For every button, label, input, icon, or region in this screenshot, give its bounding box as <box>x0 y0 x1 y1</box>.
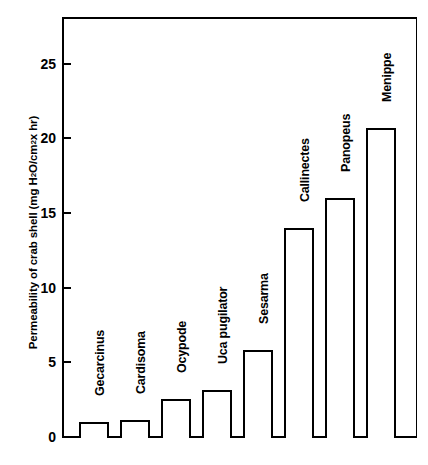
y-axis-tick-label: 0 <box>48 430 56 444</box>
bar-slot: Gecarcinus <box>79 19 109 438</box>
bar-slot: Callinectes <box>284 19 314 438</box>
bar-slot: Cardisoma <box>120 19 150 438</box>
y-axis-title-mid: O/cm <box>27 145 39 173</box>
bar-slot: Uca pugilator <box>202 19 232 438</box>
bar-label: Menippe <box>380 52 394 101</box>
bar-label: Gecarcinus <box>93 330 107 396</box>
bar-slot: Sesarma <box>243 19 273 438</box>
y-axis-title-sub-2: 2 <box>29 173 38 177</box>
bars-group: GecarcinusCardisomaOcypodeUca pugilatorS… <box>64 19 415 438</box>
y-axis-title-post: x hr) <box>27 116 39 140</box>
bar-slot: Panopeus <box>325 19 355 438</box>
bar[interactable] <box>325 198 355 438</box>
y-axis-tick-label: 5 <box>48 355 56 369</box>
y-axis-tick-label: 10 <box>40 281 56 295</box>
bar[interactable] <box>120 420 150 438</box>
bar[interactable] <box>284 228 314 438</box>
bar[interactable] <box>79 422 109 438</box>
y-axis-tick-label: 25 <box>40 57 56 71</box>
bar-label: Uca pugilator <box>216 287 230 364</box>
bar-chart-figure: Permeability of crab shell (mg H2O/cm2 x… <box>0 0 428 465</box>
bar[interactable] <box>161 399 191 438</box>
bar-slot: Ocypode <box>161 19 191 438</box>
bar[interactable] <box>366 128 396 439</box>
bar-label: Callinectes <box>298 138 312 202</box>
bar-label: Sesarma <box>257 273 271 324</box>
bar-label: Panopeus <box>339 114 353 172</box>
bar-label: Ocypode <box>175 321 189 373</box>
y-axis-tick-label: 15 <box>40 206 56 220</box>
bar[interactable] <box>243 350 273 438</box>
bar-slot: Menippe <box>366 19 396 438</box>
y-axis-title-sup-2: 2 <box>29 140 38 144</box>
y-axis-tick-label: 20 <box>40 131 56 145</box>
bar-label: Cardisoma <box>134 331 148 394</box>
bar[interactable] <box>202 390 232 438</box>
y-axis-title-pre: Permeability of crab shell (mg H <box>27 177 39 349</box>
